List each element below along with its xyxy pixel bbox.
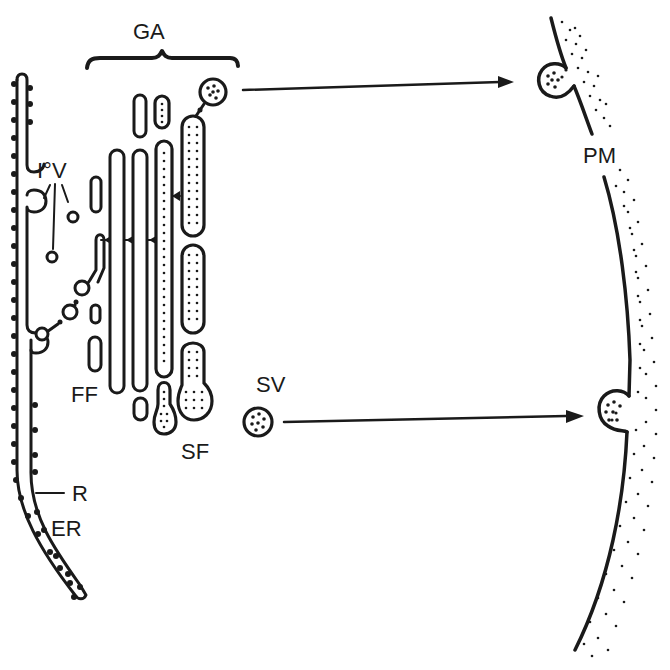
intermediate-vesicle <box>47 252 57 262</box>
cisterna-trans-1 <box>182 116 204 236</box>
transport-arrows <box>243 76 584 423</box>
cis-vesicle-top <box>134 95 146 137</box>
ga-brace <box>87 51 238 68</box>
cis-vesicle-bottom <box>134 398 147 420</box>
iov-pointer-3 <box>62 185 68 202</box>
endoplasmic-reticulum: R ER <box>11 74 88 600</box>
arrow-upper-head <box>498 76 514 88</box>
label-r: R <box>72 481 88 506</box>
label-ga: GA <box>133 19 165 44</box>
diagram-canvas: GA <box>0 0 670 670</box>
label-er: ER <box>51 516 82 541</box>
label-ff: FF <box>71 382 98 407</box>
iov-pointer-2 <box>53 184 55 249</box>
budding-vesicle <box>63 305 77 319</box>
label-sv: SV <box>256 372 286 397</box>
arrow-upper-shaft <box>243 82 500 90</box>
fusing-vesicle-lower-content <box>604 400 622 422</box>
cisterna-trans-2 <box>182 245 204 333</box>
secretory-vesicle: SV <box>244 372 286 436</box>
iov-pointer-1 <box>44 185 50 198</box>
label-iov: I°V <box>37 158 67 183</box>
label-sf: SF <box>181 439 209 464</box>
plasma-membrane: PM <box>539 12 658 657</box>
secretory-pathway-diagram: GA <box>0 0 670 670</box>
arrow-lower-head <box>566 410 584 423</box>
golgi-apparatus-label-group: GA <box>87 19 238 68</box>
budding-vesicle <box>36 328 48 340</box>
arrow-lower-shaft <box>284 416 566 422</box>
ff-vesicle <box>91 305 100 323</box>
ff-vesicle <box>91 177 101 212</box>
fusing-vesicle-upper-content <box>546 71 560 89</box>
cisterna-cis-2 <box>133 150 147 391</box>
plasma-membrane-lower-b <box>575 432 627 650</box>
intermediate-vesicle <box>68 212 78 222</box>
ff-vesicle <box>89 337 101 371</box>
extracellular-stipple-region <box>551 12 640 130</box>
plasma-membrane-lower <box>604 177 630 396</box>
budding-vesicle <box>75 281 89 295</box>
cisterna-cis-1 <box>110 150 124 393</box>
label-pm: PM <box>583 143 616 168</box>
